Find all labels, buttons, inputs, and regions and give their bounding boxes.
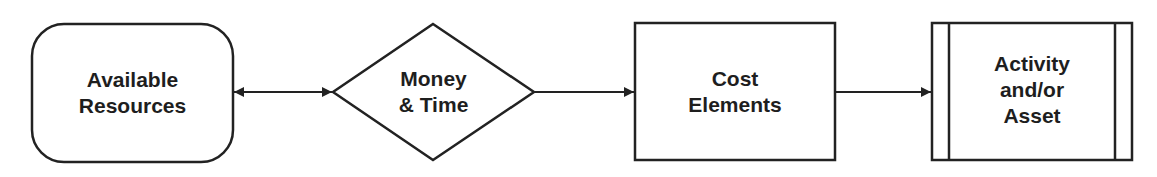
label-line: Cost bbox=[712, 66, 759, 92]
label-line: Resources bbox=[79, 93, 186, 119]
label-line: & Time bbox=[399, 92, 469, 118]
label-line: Activity bbox=[994, 51, 1070, 77]
cost-elements-label: Cost Elements bbox=[635, 23, 835, 160]
label-line: Elements bbox=[688, 92, 781, 118]
activity-asset-label: Activity and/or Asset bbox=[932, 21, 1132, 158]
label-line: and/or bbox=[1000, 77, 1064, 103]
label-line: Asset bbox=[1003, 103, 1060, 129]
label-line: Available bbox=[87, 67, 178, 93]
label-line: Money bbox=[400, 66, 467, 92]
available-resources-label: Available Resources bbox=[32, 24, 233, 162]
money-time-label: Money & Time bbox=[333, 24, 534, 160]
